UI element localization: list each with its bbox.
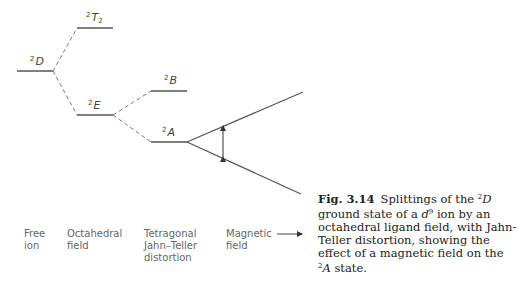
figure-caption: Fig. 3.14Splittings of the 2D ground sta… [318, 191, 518, 275]
label-2T2: 2T2 [86, 12, 103, 25]
correlation-line [53, 28, 77, 71]
figure-number: Fig. 3.14 [318, 192, 375, 206]
zeeman-lower-line [187, 142, 301, 194]
label-2A: 2A [162, 127, 175, 138]
column-label-tetragonal: Tetragonal Jahn–Teller distortion [144, 228, 197, 264]
column-label-free-ion: Free ion [24, 228, 45, 252]
label-2D: 2D [30, 56, 44, 67]
column-label-magnetic: Magnetic field [226, 228, 272, 252]
correlation-line [53, 71, 77, 115]
zeeman-upper-line [187, 92, 303, 142]
correlation-line [113, 115, 151, 142]
label-2B: 2B [164, 75, 177, 86]
label-2E: 2E [88, 100, 100, 111]
correlation-line [113, 91, 151, 115]
column-label-octahedral: Octahedral field [67, 228, 122, 252]
